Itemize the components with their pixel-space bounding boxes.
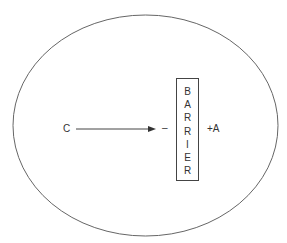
negative-sign: – <box>162 123 168 133</box>
barrier-letter: E <box>177 151 198 164</box>
barrier-letter: R <box>177 164 198 177</box>
boundary-ellipse <box>13 15 278 236</box>
barrier-letter: A <box>177 98 198 111</box>
diagram-canvas <box>0 0 287 243</box>
label-plus-a: +A <box>207 124 220 134</box>
barrier-letter: B <box>177 85 198 98</box>
barrier-letter: I <box>177 138 198 151</box>
barrier-text: B A R R I E R <box>177 85 198 177</box>
barrier-letter: R <box>177 111 198 124</box>
label-c: C <box>63 124 70 134</box>
barrier-letter: R <box>177 125 198 138</box>
arrow-head-icon <box>148 126 156 132</box>
barrier-box: B A R R I E R <box>176 78 199 181</box>
